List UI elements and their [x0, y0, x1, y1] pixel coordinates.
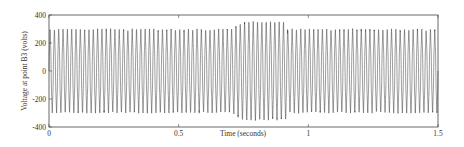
plot-area [49, 21, 438, 120]
x-tick-label: 1 [306, 129, 310, 138]
y-tick-label: -200 [32, 95, 46, 104]
y-tick-label: -400 [32, 123, 46, 132]
x-tick-label: 0.5 [174, 129, 184, 138]
y-tick-label: 200 [35, 39, 47, 48]
voltage-chart: -400-2000200400 00.511.5 Time (seconds) … [0, 0, 464, 147]
y-axis-label: Voltage at point B3 (volts) [20, 31, 29, 111]
voltage-waveform-line [49, 21, 438, 120]
x-tick-label: 0 [47, 129, 51, 138]
x-tick-label: 1.5 [433, 129, 443, 138]
x-axis-label: Time (seconds) [220, 129, 267, 138]
y-tick-label: 0 [42, 67, 46, 76]
y-tick-label: 400 [35, 11, 47, 20]
